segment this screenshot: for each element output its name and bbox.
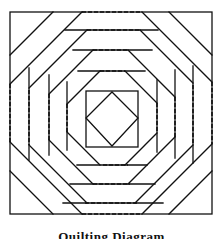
quilting-diagram bbox=[0, 0, 223, 239]
inner-square bbox=[86, 91, 138, 147]
center-diamond bbox=[86, 92, 138, 146]
figure-caption: Quilting Diagram bbox=[0, 229, 223, 239]
ring-2 bbox=[29, 30, 193, 203]
ring-3 bbox=[49, 50, 175, 184]
ring-4 bbox=[67, 71, 157, 165]
